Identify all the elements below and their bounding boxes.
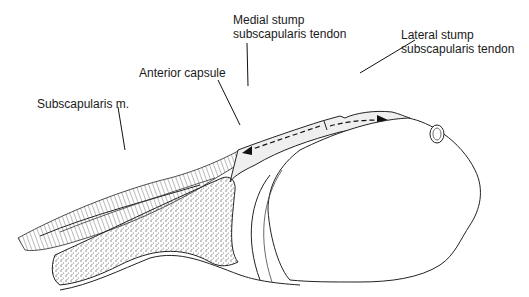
label-medial-stump-line2: subscapularis tendon [233,27,346,41]
label-anterior-capsule: Anterior capsule [139,66,226,80]
label-subscapularis-muscle: Subscapularis m. [37,97,129,111]
label-medial-stump-line1: Medial stump [233,13,346,27]
label-subscapularis-muscle-text: Subscapularis m. [37,97,129,111]
label-anterior-capsule-text: Anterior capsule [139,66,226,80]
label-medial-stump: Medial stump subscapularis tendon [233,13,346,41]
label-lateral-stump: Lateral stump subscapularis tendon [401,28,514,56]
label-lateral-stump-line2: subscapularis tendon [401,42,514,56]
label-lateral-stump-line1: Lateral stump [401,28,514,42]
anatomical-figure: Medial stump subscapularis tendon Latera… [0,0,529,297]
